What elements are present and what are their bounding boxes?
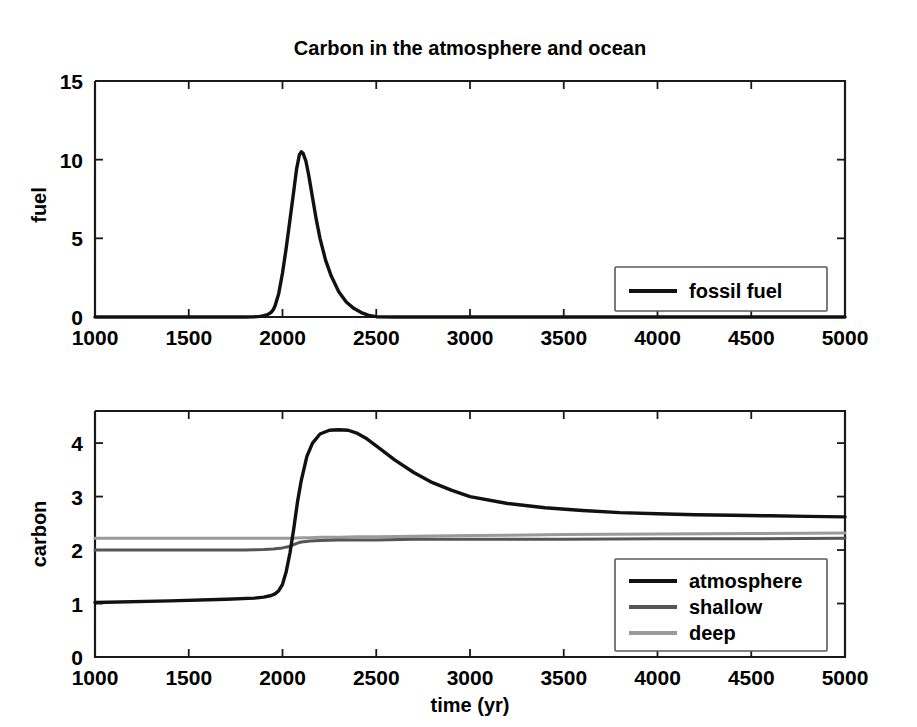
x-tick-label: 4500 — [728, 326, 775, 349]
y-tick-label: 3 — [71, 486, 83, 509]
x-tick-label: 4500 — [728, 666, 775, 689]
top-panel-x-tick-labels: 100015002000250030003500400045005000 — [72, 326, 869, 349]
x-tick-label: 2000 — [259, 326, 306, 349]
x-tick-label: 2500 — [353, 326, 400, 349]
x-axis-title: time (yr) — [431, 694, 510, 716]
x-tick-label: 1500 — [165, 326, 212, 349]
x-tick-label: 3000 — [447, 326, 494, 349]
x-tick-label: 3500 — [540, 326, 587, 349]
legend-label-shallow: shallow — [689, 596, 763, 618]
figure-container: Carbon in the atmosphere and ocean 05101… — [0, 0, 917, 727]
x-tick-label: 1500 — [165, 666, 212, 689]
x-tick-label: 1000 — [72, 666, 119, 689]
y-tick-label: 1 — [71, 593, 83, 616]
x-tick-label: 1000 — [72, 326, 119, 349]
y-tick-label: 5 — [71, 227, 83, 250]
carbon-chart-svg: Carbon in the atmosphere and ocean 05101… — [0, 0, 917, 727]
page-title: Carbon in the atmosphere and ocean — [294, 37, 646, 59]
legend-label-fossil-fuel: fossil fuel — [689, 280, 782, 302]
top-panel-legend[interactable]: fossil fuel — [615, 267, 827, 311]
y-tick-label: 2 — [71, 539, 83, 562]
x-tick-label: 4000 — [634, 326, 681, 349]
x-tick-label: 2500 — [353, 666, 400, 689]
y-tick-label: 15 — [60, 70, 84, 93]
x-tick-label: 3000 — [447, 666, 494, 689]
bottom-panel-legend[interactable]: atmosphereshallowdeep — [615, 559, 827, 651]
x-tick-label: 2000 — [259, 666, 306, 689]
bottom-panel-x-tick-labels: 100015002000250030003500400045005000 — [72, 666, 869, 689]
bottom-panel-y-axis-title: carbon — [28, 501, 50, 568]
top-panel-y-axis-title: fuel — [28, 187, 50, 223]
x-tick-label: 5000 — [822, 666, 869, 689]
y-tick-label: 10 — [60, 149, 83, 172]
y-tick-label: 4 — [71, 432, 83, 455]
x-tick-label: 5000 — [822, 326, 869, 349]
legend-label-deep: deep — [689, 622, 736, 644]
x-tick-label: 3500 — [540, 666, 587, 689]
x-tick-label: 4000 — [634, 666, 681, 689]
legend-label-atmosphere: atmosphere — [689, 570, 802, 592]
